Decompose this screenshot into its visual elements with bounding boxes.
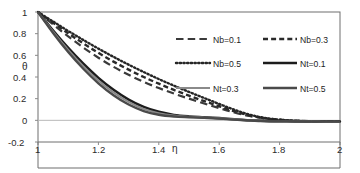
ytick-label-5: 0 (22, 116, 27, 126)
series-line-nt-0-3 (38, 12, 340, 122)
series-layer (38, 12, 340, 122)
legend-label-nt-0-1: Nt=0.1 (300, 60, 326, 69)
xtick-label-5: 2 (337, 145, 342, 155)
xtick-label-2: 1.4 (152, 145, 165, 155)
chart-figure: 1 0.8 0.6 0.4 0.2 0 -0.2 θ 1 1.2 1.4 1.6… (0, 0, 360, 173)
xtick-label-3: 1.6 (212, 145, 225, 155)
ytick-label-3: 0.4 (13, 73, 26, 83)
xtick-label-1: 1.2 (92, 145, 105, 155)
x-axis-title: η (172, 144, 178, 154)
y-axis-title: θ (22, 62, 28, 72)
ytick-label-6: -0.2 (8, 138, 24, 148)
legend-label-nb-0-5: Nb=0.5 (213, 60, 241, 69)
legend-label-nb-0-3: Nb=0.3 (300, 36, 328, 45)
legend-label-nt-0-5: Nt=0.5 (300, 85, 326, 94)
ytick-label-0: 1 (22, 8, 27, 18)
axes-layer (35, 12, 340, 168)
xtick-label-4: 1.8 (272, 145, 285, 155)
legend-label-nb-0-1: Nb=0.1 (213, 36, 241, 45)
legend-label-nt-0-3: Nt=0.3 (213, 85, 239, 94)
xtick-label-0: 1 (35, 145, 40, 155)
ytick-label-2: 0.6 (13, 51, 26, 61)
ytick-label-4: 0.2 (13, 94, 26, 104)
ytick-label-1: 0.8 (13, 29, 26, 39)
